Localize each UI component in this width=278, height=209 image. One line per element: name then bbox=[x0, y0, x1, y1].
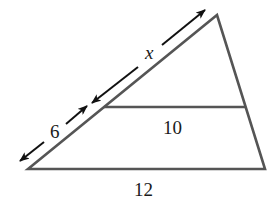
triangle-diagram: x 6 10 12 bbox=[0, 0, 278, 209]
label-12: 12 bbox=[134, 179, 153, 200]
label-10: 10 bbox=[163, 117, 182, 138]
label-6: 6 bbox=[50, 121, 60, 142]
diagram-canvas: x 6 10 12 bbox=[0, 0, 278, 209]
outer-triangle bbox=[28, 15, 265, 169]
label-x: x bbox=[144, 42, 154, 63]
